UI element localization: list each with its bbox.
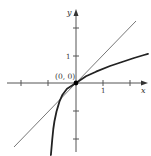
y-tick-label-1: 1	[66, 53, 70, 61]
y-axis-arrow-icon	[74, 9, 79, 16]
x-axis-arrow-icon	[141, 81, 148, 86]
x-tick-label-1: 1	[101, 87, 105, 95]
y-axis-label: y	[66, 8, 72, 17]
origin-point	[74, 81, 79, 86]
x-axis-label: x	[141, 86, 146, 95]
point-label: (0, 0)	[55, 72, 75, 81]
log-curve	[51, 54, 148, 155]
diagram: (0, 0) y x 1 1	[0, 0, 151, 156]
